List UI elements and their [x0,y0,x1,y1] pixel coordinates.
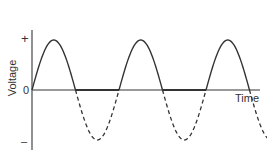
plus-tick-label: + [21,32,29,45]
rectifier-waveform-diagram [0,0,267,155]
zero-tick-label: 0 [23,85,29,96]
x-axis-label: Time [235,93,259,104]
y-axis-label: Voltage [6,60,18,97]
rectified-wave [32,40,250,90]
minus-tick-label: – [21,136,27,147]
